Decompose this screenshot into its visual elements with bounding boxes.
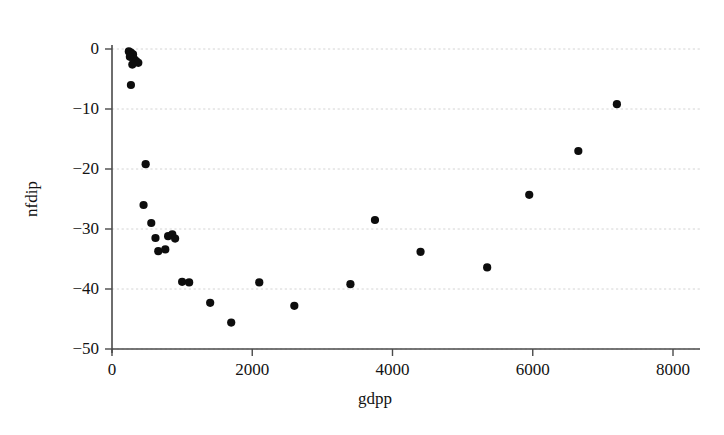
data-point — [171, 235, 179, 243]
data-point — [346, 280, 354, 288]
data-point — [525, 191, 533, 199]
data-point — [483, 263, 491, 271]
x-tick-label: 2000 — [235, 360, 269, 379]
data-point — [185, 278, 193, 286]
x-axis-label: gdpp — [358, 389, 392, 408]
data-point — [161, 245, 169, 253]
y-tick-label: −20 — [72, 159, 99, 178]
y-tick-label: −40 — [72, 279, 99, 298]
data-point — [206, 299, 214, 307]
data-point — [227, 319, 235, 327]
data-point — [371, 216, 379, 224]
x-tick-label: 6000 — [516, 360, 550, 379]
data-point — [139, 201, 147, 209]
y-axis-label: nfdip — [22, 181, 41, 217]
scatter-plot-figure: 0−10−20−30−40−5002000400060008000 gdpp n… — [0, 0, 724, 435]
data-point — [128, 61, 136, 69]
data-point — [290, 302, 298, 310]
data-point — [147, 219, 155, 227]
data-point — [255, 278, 263, 286]
data-point — [154, 247, 162, 255]
data-point — [142, 160, 150, 168]
y-tick-label: 0 — [91, 39, 100, 58]
data-point — [416, 248, 424, 256]
data-point — [613, 100, 621, 108]
x-tick-label: 8000 — [656, 360, 690, 379]
x-tick-label: 0 — [108, 360, 117, 379]
data-point — [574, 147, 582, 155]
y-tick-label: −10 — [72, 99, 99, 118]
y-tick-label: −50 — [72, 339, 99, 358]
y-tick-label: −30 — [72, 219, 99, 238]
data-point — [178, 278, 186, 286]
x-tick-label: 4000 — [376, 360, 410, 379]
data-point — [151, 234, 159, 242]
data-point — [127, 81, 135, 89]
